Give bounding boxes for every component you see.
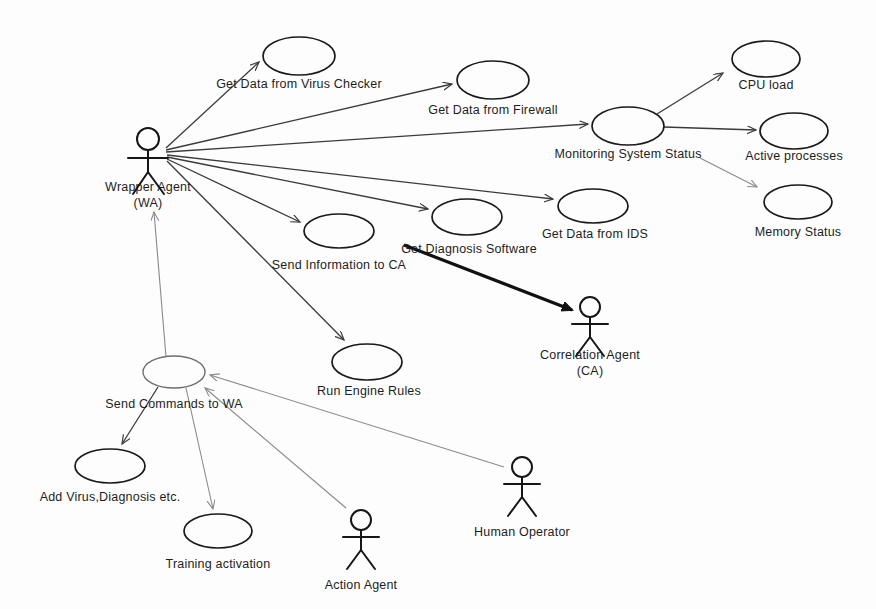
use-case-cpu-load[interactable] (732, 41, 800, 77)
label-get-data-ids: Get Data from IDS (542, 227, 648, 241)
use-case-diagram-canvas: Get Data from Virus Checker Get Data fro… (0, 0, 876, 609)
connection-wa-to-firewall (166, 84, 452, 150)
label-correlation-agent: Correlation Agent (540, 348, 640, 362)
connection-send-commands-to-wrapper-agent (154, 212, 166, 357)
connection-wa-to-run-engine (167, 161, 344, 340)
connection-wa-to-virus-checker (166, 62, 259, 148)
label-get-data-virus-checker: Get Data from Virus Checker (216, 77, 382, 91)
connection-monitoring-to-active (664, 127, 756, 130)
connection-wa-to-monitoring (166, 124, 588, 152)
label-wrapper-agent-abbrev: (WA) (134, 196, 163, 210)
use-case-get-diagnosis-software[interactable] (432, 199, 502, 235)
label-memory-status: Memory Status (755, 225, 842, 239)
label-monitoring-system-status: Monitoring System Status (554, 147, 701, 161)
use-case-active-processes[interactable] (760, 113, 828, 149)
label-action-agent: Action Agent (325, 578, 398, 592)
label-send-commands-to-wa: Send Commands to WA (105, 397, 242, 411)
label-human-operator: Human Operator (474, 525, 570, 539)
label-add-virus-diagnosis: Add Virus,Diagnosis etc. (40, 490, 181, 504)
connection-wa-to-ids (167, 155, 553, 199)
actor-human-operator[interactable] (504, 457, 540, 516)
label-training-activation: Training activation (166, 557, 271, 571)
label-send-information-to-ca: Send Information to CA (272, 258, 406, 272)
label-get-diagnosis-software: Get Diagnosis Software (401, 242, 537, 256)
use-case-monitoring-system-status[interactable] (592, 107, 664, 145)
label-get-data-firewall: Get Data from Firewall (428, 103, 557, 117)
label-run-engine-rules: Run Engine Rules (317, 384, 421, 398)
use-case-get-data-virus-checker[interactable] (263, 37, 335, 75)
connection-send-commands-to-add-virus (122, 387, 158, 444)
use-case-send-information-to-ca[interactable] (304, 214, 374, 248)
use-case-memory-status[interactable] (764, 185, 832, 219)
connection-monitoring-to-cpu (657, 73, 723, 114)
label-correlation-agent-abbrev: (CA) (577, 364, 604, 378)
label-wrapper-agent: Wrapper Agent (105, 180, 191, 194)
label-active-processes: Active processes (745, 149, 843, 163)
use-case-add-virus-diagnosis[interactable] (75, 449, 145, 483)
use-case-send-commands-to-wa[interactable] (143, 356, 205, 388)
use-case-run-engine-rules[interactable] (332, 344, 402, 380)
use-case-get-data-firewall[interactable] (457, 61, 529, 99)
label-cpu-load: CPU load (738, 78, 793, 92)
actor-action-agent[interactable] (343, 510, 379, 569)
use-case-training-activation[interactable] (184, 514, 252, 548)
use-case-get-data-ids[interactable] (558, 189, 628, 223)
